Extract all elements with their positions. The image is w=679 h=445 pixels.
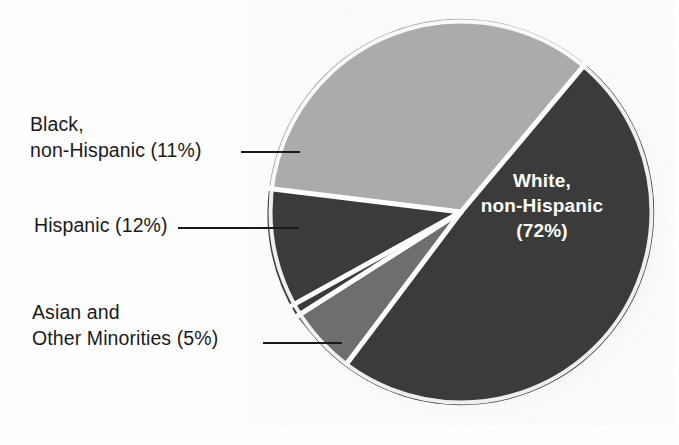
slice-label-hispanic: Hispanic (12%) — [34, 213, 168, 239]
slice-label-white-line1: White, — [462, 168, 622, 193]
slice-label-black-non-hispanic: Black, non-Hispanic (11%) — [30, 112, 202, 163]
slice-label-black-line2: non-Hispanic (11%) — [30, 138, 202, 164]
slice-label-black-line1: Black, — [30, 112, 202, 138]
slice-label-white-line3: (72%) — [462, 218, 622, 243]
slice-label-asian-line2: Other Minorities (5%) — [32, 326, 218, 352]
pie-chart-figure: Black, non-Hispanic (11%) Hispanic (12%)… — [0, 0, 679, 445]
slice-label-white-line2: non-Hispanic — [462, 193, 622, 218]
slice-label-hispanic-line1: Hispanic (12%) — [34, 213, 168, 239]
slice-label-asian-line1: Asian and — [32, 300, 218, 326]
slice-label-white-non-hispanic: White, non-Hispanic (72%) — [462, 168, 622, 243]
slice-label-asian-other-minorities: Asian and Other Minorities (5%) — [32, 300, 218, 351]
